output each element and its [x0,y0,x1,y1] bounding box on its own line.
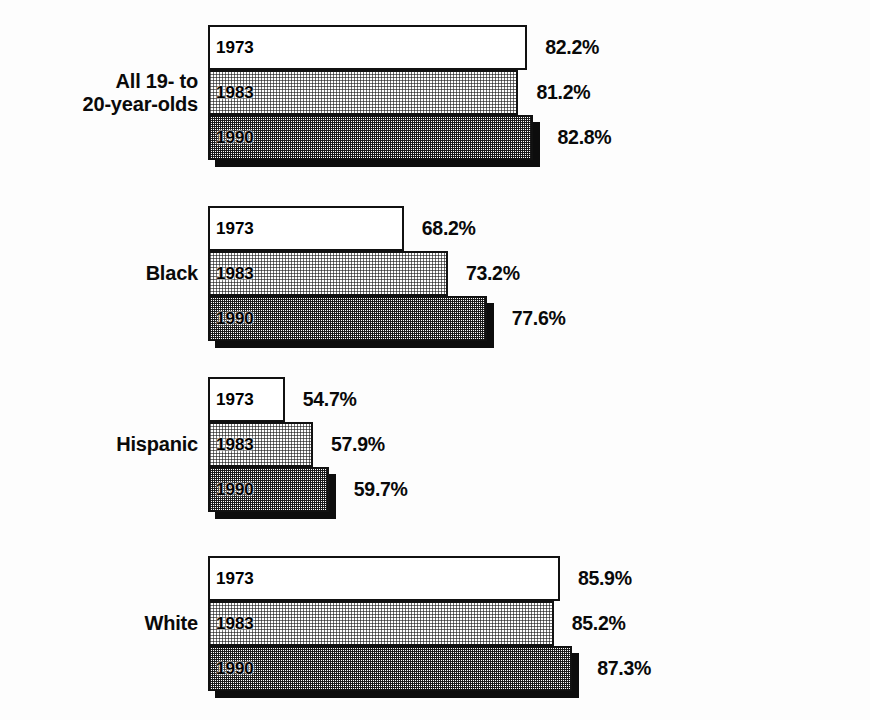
bar-value-label: 85.2% [572,612,626,635]
bar-value-label: 59.7% [354,478,408,501]
bar-value-label: 77.6% [512,307,566,330]
bar-year-label: 1973 [216,219,254,239]
grouped-horizontal-bar-chart: All 19- to 20-year-olds197382.2%198381.2… [0,0,870,720]
bar-value-label: 82.2% [545,36,599,59]
bar-year-label: 1990 [216,480,254,500]
bar-value-label: 87.3% [597,657,651,680]
bar-value-label: 85.9% [578,567,632,590]
bar-value-label: 81.2% [536,81,590,104]
bar-year-label: 1983 [216,83,254,103]
bar-1983 [208,601,554,646]
bar-value-label: 82.8% [558,126,612,149]
bar-year-label: 1973 [216,390,254,410]
bar-value-label: 73.2% [466,262,520,285]
bar-1983 [208,70,518,115]
bar-year-label: 1990 [216,659,254,679]
bar-value-label: 57.9% [331,433,385,456]
bar-year-label: 1973 [216,38,254,58]
bar-1973 [208,25,527,70]
bar-1990 [208,115,533,160]
category-label: Black [8,262,198,285]
bar-year-label: 1983 [216,614,254,634]
bar-value-label: 54.7% [303,388,357,411]
bar-year-label: 1990 [216,128,254,148]
bar-1973 [208,556,560,601]
bar-year-label: 1983 [216,435,254,455]
bar-year-label: 1973 [216,569,254,589]
bar-value-label: 68.2% [422,217,476,240]
bar-year-label: 1990 [216,309,254,329]
category-label: Hispanic [8,433,198,456]
bar-year-label: 1983 [216,264,254,284]
category-label: White [8,612,198,635]
category-label: All 19- to 20-year-olds [8,70,198,116]
bar-1990 [208,646,572,691]
